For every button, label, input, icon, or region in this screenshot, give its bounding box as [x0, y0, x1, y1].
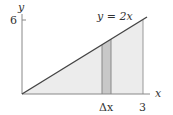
x-tick-label: 3: [139, 101, 146, 114]
delta-x-strip: [102, 39, 111, 94]
y-tick-label: 6: [10, 14, 17, 27]
y-axis-label: y: [17, 1, 25, 14]
area-under-line-diagram: y 6 x 3 Δx y = 2x: [0, 0, 173, 115]
strip-label: Δx: [99, 101, 114, 114]
x-axis-label: x: [155, 87, 162, 100]
curve-label: y = 2x: [96, 10, 133, 23]
